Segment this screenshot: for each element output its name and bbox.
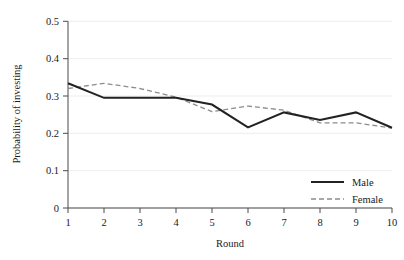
x-tickmarks [68, 208, 392, 213]
x-axis-title: Round [216, 238, 245, 249]
x-tick-label-5: 6 [245, 217, 250, 228]
x-tick-label-0: 1 [65, 217, 70, 228]
y-axis-title: Probability of investing [11, 64, 22, 164]
series-line-male [68, 83, 392, 127]
y-tick-label-1: 0.4 [46, 53, 60, 64]
y-tickmarks [63, 21, 68, 208]
x-tick-label-6: 7 [281, 217, 286, 228]
legend-label-male: Male [352, 177, 374, 188]
x-tick-label-2: 3 [137, 217, 142, 228]
x-tick-label-4: 5 [209, 217, 214, 228]
x-tick-label-9: 10 [387, 217, 398, 228]
x-tick-label-1: 2 [101, 217, 106, 228]
series-line-female [68, 83, 392, 128]
x-tick-label-3: 4 [173, 217, 179, 228]
legend-label-female: Female [352, 194, 383, 205]
y-tick-label-3: 0.2 [46, 128, 59, 139]
y-tick-label-4: 0.1 [46, 165, 59, 176]
x-tick-labels: 1 2 3 4 5 6 7 8 9 10 [65, 217, 397, 228]
x-tick-label-8: 9 [353, 217, 358, 228]
y-tick-label-0: 0.5 [46, 16, 59, 27]
y-tick-label-2: 0.3 [46, 91, 59, 102]
y-tick-label-5: 0 [54, 203, 59, 214]
chart-figure: 0.5 0.4 0.3 0.2 0.1 0 1 2 3 4 5 6 7 8 9 … [0, 0, 404, 260]
x-tick-label-7: 8 [317, 217, 322, 228]
line-chart: 0.5 0.4 0.3 0.2 0.1 0 1 2 3 4 5 6 7 8 9 … [0, 0, 404, 260]
chart-legend: Male Female [311, 177, 383, 205]
y-tick-labels: 0.5 0.4 0.3 0.2 0.1 0 [46, 16, 60, 214]
